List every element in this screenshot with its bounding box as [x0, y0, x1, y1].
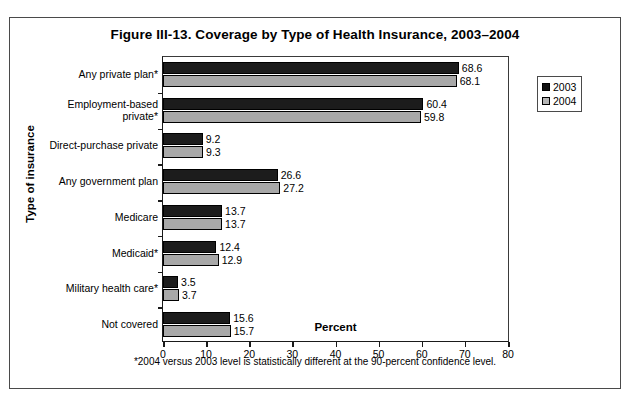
category-label: Any private plan* — [8, 68, 158, 80]
bar-2004 — [163, 218, 222, 230]
bar-2004 — [163, 75, 457, 87]
x-axis-tick — [249, 342, 251, 347]
x-axis-tick — [336, 342, 338, 347]
legend-label: 2004 — [553, 94, 576, 108]
bar-2003 — [163, 276, 178, 288]
legend-label: 2003 — [553, 80, 576, 94]
legend-item: 2003 — [542, 80, 576, 94]
bar-group: 9.29.3 — [163, 133, 508, 159]
category-label: Any government plan — [8, 175, 158, 187]
category-label: Medicare — [8, 211, 158, 223]
bar-2003 — [163, 241, 216, 253]
category-label: Not covered — [8, 318, 158, 330]
figure-frame: Figure III-13. Coverage by Type of Healt… — [9, 17, 621, 389]
bar-2003 — [163, 169, 278, 181]
bar-2003 — [163, 205, 222, 217]
bar-value-label: 3.5 — [181, 276, 196, 288]
y-axis-tick — [158, 164, 163, 166]
bar-value-label: 68.6 — [462, 62, 482, 74]
x-axis-tick — [465, 342, 467, 347]
x-axis-tick — [206, 342, 208, 347]
bar-value-label: 12.4 — [219, 241, 239, 253]
bar-value-label: 60.4 — [426, 98, 446, 110]
y-axis-tick — [158, 236, 163, 238]
x-axis-tick — [422, 342, 424, 347]
bar-value-label: 26.6 — [281, 169, 301, 181]
y-axis-tick — [158, 307, 163, 309]
bar-2004 — [163, 146, 203, 158]
bar-value-label: 9.2 — [206, 133, 221, 145]
bar-2004 — [163, 254, 219, 266]
category-label: Military health care* — [8, 282, 158, 294]
bar-value-label: 13.7 — [225, 218, 245, 230]
bar-2004 — [163, 182, 280, 194]
bar-value-label: 9.3 — [206, 146, 221, 158]
y-axis-tick — [158, 200, 163, 202]
x-axis-tick — [508, 342, 510, 347]
footnote: *2004 versus 2003 level is statistically… — [10, 356, 620, 367]
x-axis-tick — [379, 342, 381, 347]
category-label: Direct-purchase private — [8, 139, 158, 151]
legend-item: 2004 — [542, 94, 576, 108]
bar-value-label: 59.8 — [424, 111, 444, 123]
bar-value-label: 3.7 — [182, 289, 197, 301]
category-label: Medicaid* — [8, 247, 158, 259]
bar-2004 — [163, 111, 421, 123]
y-axis-tick — [158, 93, 163, 95]
bar-2004 — [163, 289, 179, 301]
bar-2003 — [163, 98, 423, 110]
plot-area: 68.668.160.459.89.29.326.627.213.713.712… — [162, 56, 509, 342]
bar-group: 3.53.7 — [163, 276, 508, 302]
x-axis-tick — [163, 342, 165, 347]
bar-2003 — [163, 133, 203, 145]
legend-swatch-icon — [542, 97, 550, 105]
y-axis-tick — [158, 129, 163, 131]
bar-value-label: 12.9 — [222, 254, 242, 266]
legend-swatch-icon — [542, 83, 550, 91]
bar-group: 68.668.1 — [163, 62, 508, 88]
x-axis-tick — [292, 342, 294, 347]
y-axis-tick — [158, 272, 163, 274]
category-axis-labels: Any private plan*Employment-basedprivate… — [10, 56, 158, 342]
chart-title: Figure III-13. Coverage by Type of Healt… — [10, 27, 620, 42]
legend: 20032004 — [537, 76, 582, 112]
bar-group: 12.412.9 — [163, 241, 508, 267]
bar-group: 26.627.2 — [163, 169, 508, 195]
bar-value-label: 68.1 — [460, 75, 480, 87]
category-label: Employment-basedprivate* — [8, 98, 158, 122]
bar-group: 60.459.8 — [163, 98, 508, 124]
x-axis-title: Percent — [162, 321, 509, 333]
bar-2003 — [163, 62, 459, 74]
bar-value-label: 27.2 — [283, 182, 303, 194]
bar-value-label: 13.7 — [225, 205, 245, 217]
bar-group: 13.713.7 — [163, 205, 508, 231]
